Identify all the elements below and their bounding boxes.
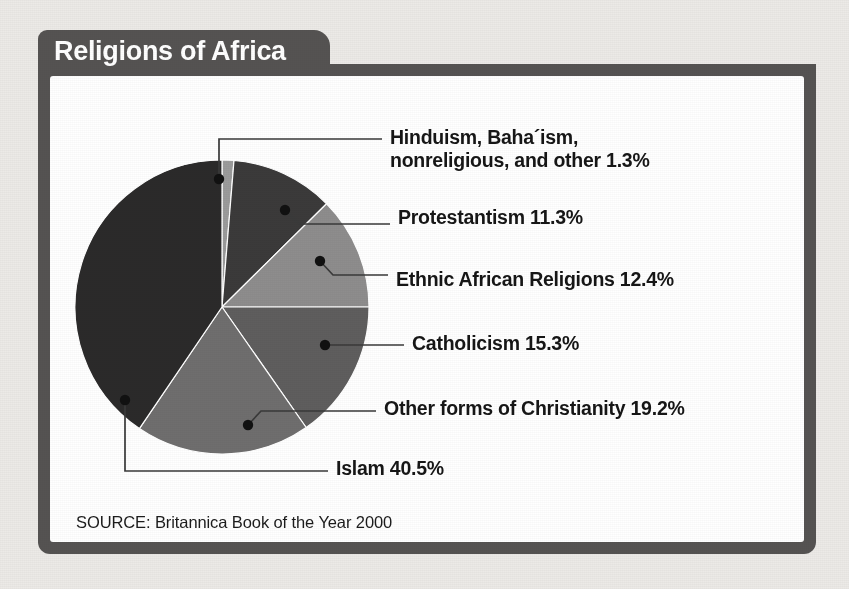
pie-svg bbox=[75, 160, 369, 454]
pie-chart bbox=[75, 160, 369, 454]
pie-label-ethnic-african-religions: Ethnic African Religions 12.4% bbox=[396, 268, 674, 291]
pie-slice-group bbox=[75, 160, 369, 454]
page-title: Religions of Africa bbox=[54, 36, 286, 67]
source-note: SOURCE: Britannica Book of the Year 2000 bbox=[76, 513, 392, 532]
pie-label-hinduism-line1: Hinduism, Baha´ism, bbox=[390, 126, 578, 148]
pie-label-protestantism: Protestantism 11.3% bbox=[398, 206, 583, 229]
pie-label-hinduism-line2: nonreligious, and other 1.3% bbox=[390, 149, 650, 171]
pie-label-hinduism: Hinduism, Baha´ism,nonreligious, and oth… bbox=[390, 126, 650, 172]
pie-label-catholicism: Catholicism 15.3% bbox=[412, 332, 579, 355]
infographic-card-root: Religions of Africa bbox=[0, 0, 849, 589]
pie-label-other-forms-of-christianity: Other forms of Christianity 19.2% bbox=[384, 397, 685, 420]
pie-label-islam: Islam 40.5% bbox=[336, 457, 444, 480]
